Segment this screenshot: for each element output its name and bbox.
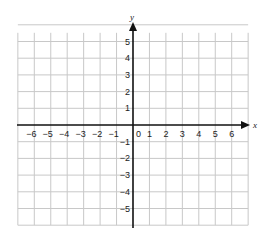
y-tick-label: 1 (125, 103, 130, 113)
x-tick-label: 5 (213, 129, 218, 139)
x-tick-label: 6 (229, 129, 234, 139)
x-tick-label: −1 (108, 129, 118, 139)
y-tick-label: −3 (120, 170, 130, 180)
y-tick-label: −2 (120, 153, 130, 163)
y-tick-label: 2 (125, 87, 130, 97)
x-tick-label: 1 (147, 129, 152, 139)
x-tick-label: −3 (76, 129, 86, 139)
y-axis: y (129, 12, 137, 228)
x-tick-label: −4 (59, 129, 69, 139)
x-tick-label: 2 (163, 129, 168, 139)
x-tick-label: 0 (136, 129, 141, 139)
x-tick-label: 3 (180, 129, 185, 139)
y-tick-label: −1 (120, 137, 130, 147)
y-tick-label: −4 (120, 187, 130, 197)
x-tick-label: −5 (43, 129, 53, 139)
coordinate-plane: x y −6−5−4−3−2−10123456 54321−1−2−3−4−5 (0, 0, 268, 236)
y-tick-label: 5 (125, 37, 130, 47)
y-tick-label: 4 (125, 53, 130, 63)
x-tick-label: 4 (196, 129, 201, 139)
x-tick-labels: −6−5−4−3−2−10123456 (26, 129, 234, 139)
y-axis-label: y (129, 12, 134, 22)
y-tick-label: −5 (120, 204, 130, 214)
y-axis-arrow-icon (129, 22, 137, 31)
x-axis-label: x (252, 120, 257, 130)
x-tick-label: −2 (92, 129, 102, 139)
x-tick-label: −6 (26, 129, 36, 139)
y-tick-label: 3 (125, 70, 130, 80)
